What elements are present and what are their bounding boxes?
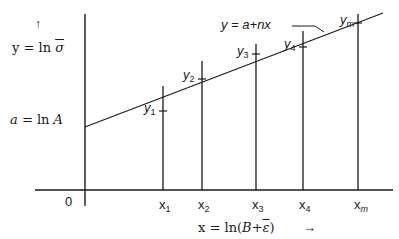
origin-label: 0 bbox=[65, 195, 72, 208]
y1-label: y1 bbox=[144, 101, 156, 117]
intercept-label: a = ln A bbox=[10, 113, 63, 126]
x-axis-b: B+ bbox=[242, 220, 262, 235]
x-axis-label: x = ln(B+ε) bbox=[198, 221, 275, 234]
y2-label: y2 bbox=[183, 68, 195, 84]
x2-label: x2 bbox=[198, 198, 210, 214]
intercept-eq: = ln bbox=[18, 112, 54, 127]
x-axis-epsilon: ε bbox=[263, 220, 270, 235]
x3-label: x3 bbox=[252, 198, 264, 214]
line-equation-label: y = a+nx bbox=[221, 18, 271, 31]
xm-label: xm bbox=[354, 198, 368, 214]
y-axis-eq: = ln bbox=[19, 40, 55, 55]
ym-label: ym bbox=[340, 13, 354, 29]
x-axis-close: ) bbox=[270, 220, 275, 235]
y-axis-arrow: ↑ bbox=[35, 18, 41, 30]
x-axis-arrow: → bbox=[303, 221, 316, 234]
equation-leader bbox=[292, 26, 324, 32]
x-axis-eq: = ln( bbox=[205, 220, 242, 235]
intercept-sym: A bbox=[54, 112, 63, 127]
y-axis-sigma: σ bbox=[55, 40, 64, 55]
y4-label: y4 bbox=[284, 37, 296, 53]
y-axis-label: y = ln σ bbox=[12, 41, 64, 54]
x1-label: x1 bbox=[159, 198, 171, 214]
x4-label: x4 bbox=[299, 198, 311, 214]
y3-label: y3 bbox=[237, 44, 249, 60]
intercept-var: a bbox=[10, 112, 18, 127]
